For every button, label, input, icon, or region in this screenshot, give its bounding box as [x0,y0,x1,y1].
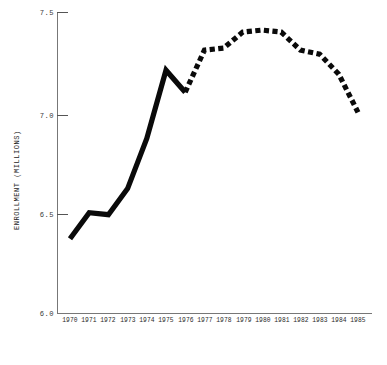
x-tick-label-1984: 1984 [331,317,347,324]
y-tick-label-0: 7.5 [40,9,54,17]
x-tick-label-1983: 1983 [312,317,328,324]
x-tick-label-1982: 1982 [293,317,309,324]
x-tick-label-1976: 1976 [178,317,194,324]
x-tick-label-1974: 1974 [139,317,155,324]
enrollment-line-chart: 7.5 7.0 6.5 6.0 ENROLLMENT (MILLIONS) 19… [0,0,387,365]
x-tick-label-1977: 1977 [197,317,213,324]
x-tick-label-1971: 1971 [81,317,97,324]
x-tick-label-1978: 1978 [216,317,232,324]
x-tick-label-1985: 1985 [350,317,366,324]
x-tick-label-1980: 1980 [255,317,271,324]
x-tick-label-1973: 1973 [120,317,136,324]
y-tick-label-1: 7.0 [40,112,54,120]
x-tick-label-1979: 1979 [236,317,252,324]
x-tick-label-1972: 1972 [100,317,116,324]
series-line-actual [70,70,185,239]
series-line-projected [185,30,358,112]
y-axis-title: ENROLLMENT (MILLIONS) [13,130,21,230]
x-tick-label-1970: 1970 [62,317,78,324]
chart-canvas: 7.5 7.0 6.5 6.0 ENROLLMENT (MILLIONS) 19… [0,0,387,365]
y-tick-label-2: 6.5 [40,211,54,219]
y-tick-label-3: 6.0 [40,310,54,318]
x-tick-label-1975: 1975 [158,317,174,324]
x-tick-label-1981: 1981 [274,317,290,324]
